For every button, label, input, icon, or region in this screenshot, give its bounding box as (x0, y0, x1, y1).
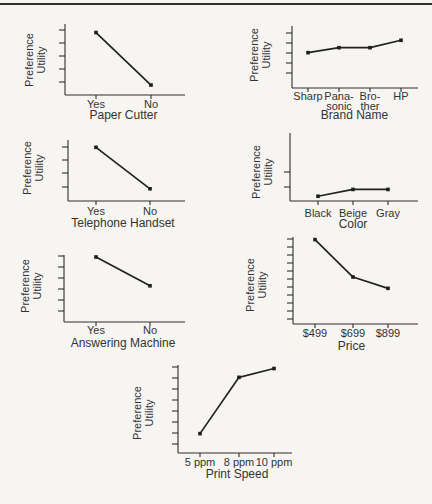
utility-line (96, 147, 150, 188)
y-axis-title-line: Utility (31, 272, 43, 299)
x-axis-title: Telephone Handset (71, 216, 175, 230)
data-point (313, 238, 317, 242)
data-point (337, 46, 341, 50)
y-axis-title-line: Preference (244, 258, 256, 312)
y-axis-title-line: Preference (21, 141, 33, 195)
y-axis-title-line: Utility (33, 154, 45, 181)
x-tick-label: $699 (341, 327, 365, 339)
utility-line (96, 257, 150, 286)
x-tick-label: Yes (87, 324, 105, 336)
data-point (94, 146, 98, 150)
data-point (368, 46, 372, 50)
x-tick-label: $499 (303, 327, 327, 339)
chart-brand-name: SharpPana-sonicBro-therHPBrand NamePrefe… (240, 18, 432, 124)
x-axis-title: Paper Cutter (89, 108, 157, 122)
data-point (351, 275, 355, 279)
data-point (306, 51, 310, 55)
y-axis-title-line: Preference (19, 259, 31, 313)
x-tick-label-line: Sharp (293, 90, 322, 102)
y-axis-title-line: Preference (23, 33, 35, 87)
x-tick-label-line: $899 (376, 327, 400, 339)
utility-line (315, 240, 388, 289)
utility-line (308, 40, 401, 52)
x-tick-label-line: $499 (303, 327, 327, 339)
y-axis-title-line: Preference (250, 145, 262, 199)
x-tick-label: Gray (376, 207, 400, 219)
x-tick-label-line: Gray (376, 207, 400, 219)
y-axis-title-line: Preference (248, 28, 260, 82)
chart-price: $499$699$899PricePreferenceUtility (240, 230, 432, 354)
x-tick-label-line: Black (305, 207, 332, 219)
y-axis-title-line: Utility (143, 399, 155, 426)
x-tick-label-line: HP (393, 90, 408, 102)
y-axis-title-line: Utility (256, 271, 268, 298)
x-tick-label-line: Yes (87, 324, 105, 336)
utility-line (96, 33, 151, 86)
utility-line (200, 369, 274, 434)
x-tick-label: $899 (376, 327, 400, 339)
data-point (316, 194, 320, 198)
x-tick-label: Black (305, 207, 332, 219)
data-point (94, 31, 98, 35)
y-axis-title-line: Utility (260, 41, 272, 68)
data-point (148, 284, 152, 288)
data-point (399, 38, 403, 42)
y-axis-title-line: Utility (35, 46, 47, 73)
x-tick-label: HP (393, 90, 408, 102)
x-axis-title: Color (339, 217, 368, 231)
data-point (272, 367, 276, 371)
x-axis-title: Print Speed (206, 467, 269, 481)
chart-answering-machine: YesNoAnswering MachinePreferenceUtility (10, 242, 215, 352)
chart-paper-cutter: YesNoPaper CutterPreferenceUtility (10, 18, 215, 124)
y-axis-title-line: Preference (131, 386, 143, 440)
data-point (386, 188, 390, 192)
x-tick-label: Sharp (293, 90, 322, 102)
data-point (94, 255, 98, 259)
x-axis-title: Answering Machine (71, 336, 176, 350)
x-tick-label-line: No (143, 324, 157, 336)
x-tick-label-line: $699 (341, 327, 365, 339)
chart-color: BlackBeigeGrayColorPreferenceUtility (240, 130, 432, 234)
x-axis-title: Price (338, 339, 366, 353)
page-top-rule (0, 3, 432, 5)
chart-print-speed: 5 ppm8 ppm10 ppmPrint SpeedPreferenceUti… (120, 356, 332, 482)
x-axis-title: Brand Name (321, 108, 389, 122)
data-point (148, 187, 152, 191)
data-point (237, 376, 241, 380)
y-axis-title-line: Utility (262, 158, 274, 185)
x-tick-label: No (143, 324, 157, 336)
chart-telephone-handset: YesNoTelephone HandsetPreferenceUtility (10, 130, 215, 234)
data-point (386, 287, 390, 291)
data-point (198, 432, 202, 436)
data-point (149, 83, 153, 87)
data-point (351, 188, 355, 192)
